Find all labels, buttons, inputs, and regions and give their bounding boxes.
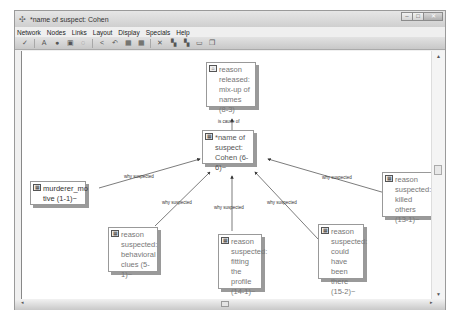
node-text-line: Cohen (6-6)~ bbox=[215, 153, 250, 173]
horizontal-scrollbar[interactable]: ◂ ▸ bbox=[15, 299, 445, 310]
menu-specials[interactable]: Specials bbox=[146, 29, 171, 36]
network-canvas[interactable]: is cause of why suspected why suspected … bbox=[21, 51, 431, 299]
node-text-line: suspected: bbox=[231, 247, 258, 257]
title-bar: ✣ *name of suspect: Cohen – □ ✕ bbox=[15, 11, 445, 27]
node-text-line: profile bbox=[231, 277, 258, 287]
menu-network[interactable]: Network bbox=[17, 29, 41, 36]
check-icon[interactable]: ✓ bbox=[21, 38, 29, 48]
node-grid-icon: ▦ bbox=[385, 175, 393, 182]
node-text-line: suspected: bbox=[331, 237, 360, 247]
node-grid-icon: ▦ bbox=[205, 133, 213, 140]
node-text-line: *name of bbox=[215, 133, 250, 143]
link-label-why-suspected: why suspected bbox=[214, 205, 244, 210]
share-icon[interactable]: < bbox=[98, 38, 106, 48]
node-text-line: fitting the bbox=[231, 257, 258, 277]
node-text-line: been there bbox=[331, 267, 360, 287]
toolbar-separator bbox=[150, 39, 151, 48]
node-text-line: reason bbox=[219, 65, 252, 75]
node-grid-icon: ▦ bbox=[111, 230, 119, 237]
menu-display[interactable]: Display bbox=[118, 29, 139, 36]
node-text-line: reason bbox=[395, 175, 430, 185]
node-text-line: clues (5-1)~ bbox=[121, 260, 154, 280]
node-text-line: (14-1)~ bbox=[231, 287, 258, 297]
node-text-line: released: bbox=[219, 75, 252, 85]
node-grid-icon: ▦ bbox=[321, 227, 329, 234]
scroll-down-arrow-icon[interactable]: ▼ bbox=[436, 291, 441, 297]
node-name-of-suspect-cohen[interactable]: ▦ *name of suspect: Cohen (6-6)~ bbox=[202, 130, 254, 164]
window-controls: – □ ✕ bbox=[402, 12, 443, 21]
menu-help[interactable]: Help bbox=[176, 29, 189, 36]
node-text-line: (13-1)~ bbox=[395, 215, 430, 225]
node-text-line: names (8-3) bbox=[219, 95, 252, 115]
node-text-line: mix-up of bbox=[219, 85, 252, 95]
copy-icon[interactable]: ❐ bbox=[208, 38, 216, 48]
node-text-line: suspected: bbox=[121, 240, 154, 250]
link-label-why-suspected: why suspected bbox=[322, 175, 352, 180]
link-label-why-suspected: why suspected bbox=[267, 200, 297, 205]
node-text-line: suspect: bbox=[215, 143, 250, 153]
close-button[interactable]: ✕ bbox=[423, 12, 443, 21]
node-grid-icon: ▦ bbox=[33, 184, 41, 191]
window-icon[interactable]: ▭ bbox=[195, 38, 203, 48]
node-text-line: reason bbox=[231, 237, 258, 247]
app-window: ✣ *name of suspect: Cohen – □ ✕ Network … bbox=[14, 10, 446, 310]
node-text-line: killed others bbox=[395, 195, 430, 215]
node-reason-killed-others[interactable]: ▦ reason suspected: killed others (13-1)… bbox=[382, 172, 434, 217]
node-murderer-motive[interactable]: ▦ murderer_mo tive (1-1)~ bbox=[30, 181, 86, 205]
vertical-scrollbar[interactable]: ▲ ▼ bbox=[431, 51, 445, 299]
undo-icon[interactable]: ↶ bbox=[111, 38, 119, 48]
menu-nodes[interactable]: Nodes bbox=[47, 29, 66, 36]
menu-layout[interactable]: Layout bbox=[93, 29, 113, 36]
menu-links[interactable]: Links bbox=[72, 29, 87, 36]
link-label-why-suspected: why suspected bbox=[124, 174, 154, 179]
toolbar-separator bbox=[92, 39, 93, 48]
note-icon: ⌂ bbox=[209, 65, 217, 72]
scroll-right-arrow-icon[interactable]: ▸ bbox=[430, 299, 433, 305]
node-reason-behavioral-clues[interactable]: ▦ reason suspected: behavioral clues (5-… bbox=[108, 227, 158, 272]
node-text-line: reason bbox=[121, 230, 154, 240]
expand-grid-icon[interactable]: ▦ bbox=[137, 38, 145, 48]
node-text-line: behavioral bbox=[121, 250, 154, 260]
node-text-line: could have bbox=[331, 247, 360, 267]
filter2-icon[interactable]: ▚ bbox=[182, 38, 190, 48]
node-text-line: (15-2)~ bbox=[331, 287, 360, 297]
node-text-line: reason bbox=[331, 227, 360, 237]
node-text-line: tive (1-1)~ bbox=[43, 194, 82, 204]
node-grid-icon: ▦ bbox=[221, 237, 229, 244]
app-icon: ✣ bbox=[19, 15, 26, 24]
horizontal-scroll-thumb[interactable] bbox=[221, 301, 229, 307]
node-text-line: suspected: bbox=[395, 185, 430, 195]
menu-bar: Network Nodes Links Layout Display Speci… bbox=[15, 27, 445, 37]
toolbar-separator bbox=[34, 39, 35, 48]
delete-icon[interactable]: ✕ bbox=[156, 38, 164, 48]
toolbar: ✓ A ● ▣ ◌ < ↶ ▦ ▦ ✕ ▚ ▚ ▭ ❐ bbox=[15, 37, 445, 50]
scroll-up-arrow-icon[interactable]: ▲ bbox=[436, 53, 441, 59]
node-reason-released[interactable]: ⌂ reason released: mix-up of names (8-3) bbox=[206, 62, 256, 107]
node-reason-fitting-profile[interactable]: ▦ reason suspected: fitting the profile … bbox=[218, 234, 262, 289]
link-label-why-suspected: why suspected bbox=[162, 200, 192, 205]
node-reason-could-have-been-there[interactable]: ▦ reason suspected: could have been ther… bbox=[318, 224, 364, 279]
grid-icon[interactable]: ▦ bbox=[124, 38, 132, 48]
link-label-is-cause-of: is cause of bbox=[218, 119, 240, 124]
window-title: *name of suspect: Cohen bbox=[30, 16, 109, 23]
scroll-left-arrow-icon[interactable]: ◂ bbox=[21, 299, 24, 305]
node-text-line: murderer_mo bbox=[43, 184, 82, 194]
comment-icon[interactable]: ◌ bbox=[79, 38, 87, 48]
node-circle-icon[interactable]: ● bbox=[53, 38, 61, 48]
filter-icon[interactable]: ▚ bbox=[169, 38, 177, 48]
vertical-scroll-thumb[interactable] bbox=[434, 165, 442, 175]
text-icon[interactable]: A bbox=[40, 38, 48, 48]
image-icon[interactable]: ▣ bbox=[66, 38, 74, 48]
